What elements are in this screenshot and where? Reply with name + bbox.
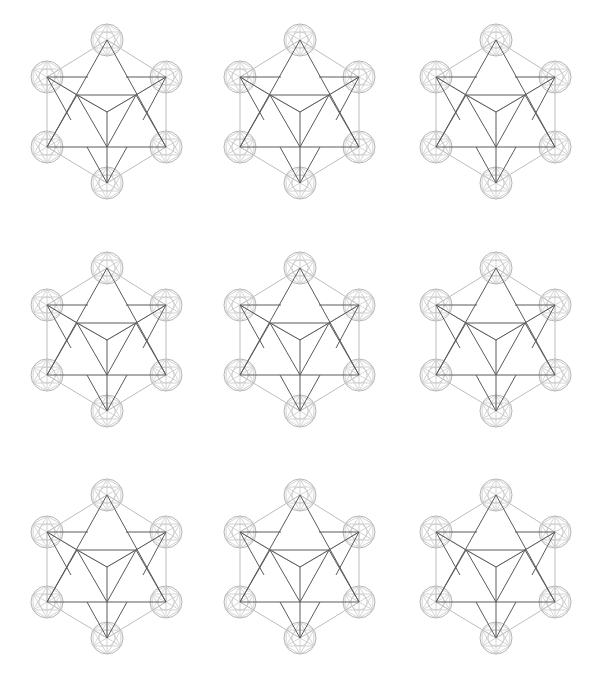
figure-2: [224, 24, 375, 199]
figure-8: [224, 479, 375, 654]
figure-4: [31, 252, 182, 427]
figure-6: [420, 252, 571, 427]
figure-5: [224, 252, 375, 427]
figure-1: [31, 24, 182, 199]
figure-9: [420, 479, 571, 654]
figure-3: [420, 24, 571, 199]
figure-7: [31, 479, 182, 654]
figure-grid: [0, 0, 597, 688]
